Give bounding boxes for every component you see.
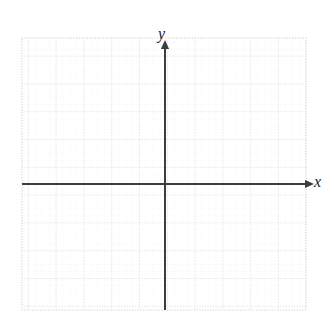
coordinate-plane-svg: [0, 0, 334, 327]
x-axis-label: x: [314, 174, 321, 190]
y-axis-label: y: [158, 26, 165, 42]
graph-figure: y x: [0, 0, 334, 327]
